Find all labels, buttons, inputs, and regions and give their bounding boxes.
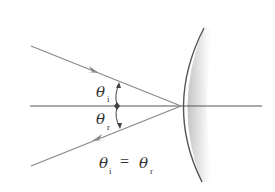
angle-arrow-top-icon — [116, 82, 121, 88]
angle-arrow-mid-down-icon — [114, 106, 120, 110]
reflection-equation: θ i = θ r — [99, 153, 153, 177]
angle-arrow-bottom-icon — [117, 123, 122, 129]
mirror-shading — [187, 28, 214, 182]
angle-arrow-mid-up-icon — [114, 102, 120, 106]
reflection-diagram: θ i θ r θ i = θ r — [0, 0, 275, 192]
theta-r-label: θ r — [96, 110, 110, 132]
theta-i-label: θ i — [96, 83, 110, 104]
